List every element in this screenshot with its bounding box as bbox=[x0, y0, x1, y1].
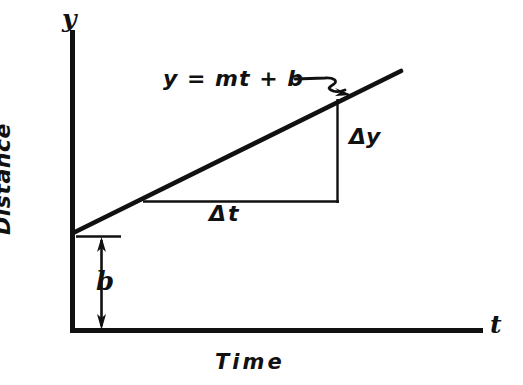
delta-y-label: Δy bbox=[349, 126, 380, 148]
line-graph-figure: y t Distance Time y = mt + b Δy Δt b bbox=[0, 0, 523, 385]
y-axis-title-distance: Distance bbox=[0, 125, 14, 235]
figure-vector-canvas bbox=[0, 0, 523, 385]
x-axis-title-time: Time bbox=[215, 352, 285, 373]
intercept-label-b: b bbox=[96, 268, 114, 294]
x-axis-variable-label: t bbox=[490, 312, 502, 337]
equation-label: y = mt + b bbox=[163, 68, 304, 90]
y-axis-variable-label: y bbox=[62, 6, 77, 31]
delta-t-label: Δt bbox=[209, 203, 241, 225]
